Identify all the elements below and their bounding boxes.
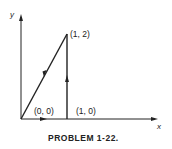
segment-2-arrow-icon [65,75,69,82]
segment-1-arrow-icon [40,117,47,121]
y-axis-arrow-icon [19,14,23,21]
point-label-1-2: (1, 2) [70,29,90,39]
x-axis-label: x [156,122,162,131]
diagram: y x (1, 2) (0, 0) (1, 0) PROBLEM 1-22. [0,0,172,149]
point-label-0-0: (0, 0) [34,106,54,116]
figure-caption: PROBLEM 1-22. [48,133,119,143]
point-label-1-0: (1, 0) [76,106,96,116]
y-axis-label: y [9,10,15,19]
x-axis-arrow-icon [151,117,158,121]
